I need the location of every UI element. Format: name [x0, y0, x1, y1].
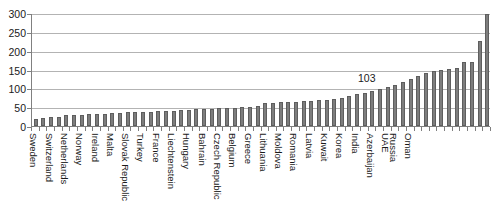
x-tick-mark: [77, 127, 78, 131]
x-tick-mark: [100, 127, 101, 131]
bar[interactable]: [72, 115, 76, 126]
bar[interactable]: [271, 103, 275, 126]
bar[interactable]: [34, 119, 38, 126]
bar[interactable]: [164, 111, 168, 126]
bar[interactable]: [233, 108, 237, 126]
x-tick-mark: [169, 127, 170, 131]
x-tick-mark: [215, 127, 216, 131]
x-axis-label: Azerbaijan: [366, 133, 375, 178]
bar[interactable]: [110, 113, 114, 126]
bar[interactable]: [294, 102, 298, 126]
bar[interactable]: [194, 109, 198, 126]
bar[interactable]: [363, 93, 367, 126]
bar[interactable]: [340, 98, 344, 126]
bar[interactable]: [57, 117, 61, 126]
bar[interactable]: [455, 68, 459, 126]
bar[interactable]: [317, 100, 321, 126]
bar[interactable]: [225, 108, 229, 126]
bar[interactable]: [279, 102, 283, 126]
bar[interactable]: [470, 62, 474, 126]
bar[interactable]: [149, 112, 153, 126]
bar[interactable]: [87, 114, 91, 126]
bar[interactable]: [424, 73, 428, 126]
bar[interactable]: [118, 113, 122, 126]
bar[interactable]: [240, 107, 244, 126]
bar[interactable]: [256, 106, 260, 126]
bar[interactable]: [409, 79, 413, 126]
bar-slot: [483, 14, 491, 126]
bar-slot: [361, 14, 369, 126]
bar-slot: [415, 14, 423, 126]
bar-slot: [55, 14, 63, 126]
bar[interactable]: [393, 85, 397, 126]
bar[interactable]: [187, 110, 191, 126]
bar[interactable]: [302, 101, 306, 126]
bar[interactable]: [64, 115, 68, 126]
bar[interactable]: [263, 103, 267, 126]
data-label-annotation: 103: [357, 72, 377, 84]
bar-slot: [384, 14, 392, 126]
bar[interactable]: [141, 112, 145, 126]
bar[interactable]: [432, 71, 436, 126]
x-tick-mark: [207, 127, 208, 131]
bar-slot: [399, 14, 407, 126]
y-tick-label: 0: [20, 122, 26, 132]
bar[interactable]: [416, 76, 420, 126]
bar[interactable]: [355, 94, 359, 126]
bar[interactable]: [439, 70, 443, 126]
x-axis-label: India: [351, 133, 360, 154]
bar-slot: [147, 14, 155, 126]
x-tick-mark: [123, 127, 124, 131]
bar-slot: [422, 14, 430, 126]
x-tick-mark: [459, 127, 460, 131]
x-tick-mark: [108, 127, 109, 131]
bar-slot: [453, 14, 461, 126]
bar[interactable]: [217, 108, 221, 126]
bar[interactable]: [172, 111, 176, 126]
bar[interactable]: [210, 109, 214, 126]
x-axis-label: Hungary: [182, 133, 191, 169]
x-axis-label: Bahrain: [198, 133, 207, 166]
x-tick-mark: [230, 127, 231, 131]
bar-slot: [124, 14, 132, 126]
x-tick-mark: [276, 127, 277, 131]
bar[interactable]: [309, 101, 313, 126]
bar[interactable]: [133, 112, 137, 126]
bar[interactable]: [126, 112, 130, 126]
bar[interactable]: [80, 115, 84, 126]
x-tick-mark: [69, 127, 70, 131]
bar[interactable]: [202, 109, 206, 126]
x-axis-label: Oman: [404, 133, 413, 159]
bar[interactable]: [478, 41, 482, 126]
x-tick-mark: [337, 127, 338, 131]
bar[interactable]: [347, 96, 351, 126]
bar[interactable]: [386, 87, 390, 126]
x-tick-mark: [322, 127, 323, 131]
bar[interactable]: [378, 89, 382, 126]
bar[interactable]: [447, 69, 451, 126]
bar[interactable]: [179, 110, 183, 126]
x-axis-label: Liechtenstein: [167, 133, 176, 189]
bar[interactable]: [49, 117, 53, 126]
x-tick-mark: [490, 127, 491, 131]
x-axis-ticks: [31, 127, 490, 132]
bar-slot: [376, 14, 384, 126]
bar[interactable]: [103, 114, 107, 126]
bar[interactable]: [95, 114, 99, 126]
bar[interactable]: [485, 14, 489, 126]
bar-slot: [468, 14, 476, 126]
bar[interactable]: [286, 102, 290, 126]
x-axis-label: Belgium: [228, 133, 237, 167]
bar[interactable]: [325, 100, 329, 126]
bar[interactable]: [332, 99, 336, 126]
bar[interactable]: [248, 107, 252, 126]
bar[interactable]: [462, 62, 466, 126]
bar[interactable]: [370, 91, 374, 126]
x-tick-mark: [444, 127, 445, 131]
bar[interactable]: [41, 118, 45, 126]
bar[interactable]: [156, 111, 160, 126]
bar-slot: [93, 14, 101, 126]
bar[interactable]: [401, 82, 405, 126]
y-tick-label: 150: [8, 66, 26, 76]
bar-slot: [70, 14, 78, 126]
